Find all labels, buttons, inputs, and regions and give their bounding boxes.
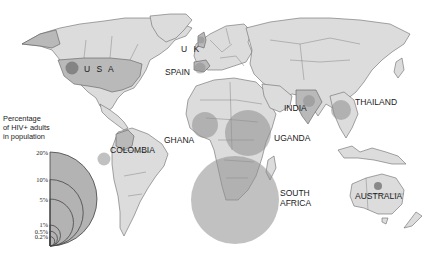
new-zealand xyxy=(404,212,422,228)
label-spain: SPAIN xyxy=(165,67,190,77)
legend-title-line2: of HIV+ adults xyxy=(3,123,50,132)
label-usa: U S A xyxy=(84,64,116,74)
legend-tick-label: 0.2% xyxy=(35,233,49,240)
bubble-australia xyxy=(374,182,382,190)
label-colombia: COLOMBIA xyxy=(110,145,155,155)
legend-tick-label: 20% xyxy=(36,149,48,156)
legend: Percentage of HIV+ adults in population … xyxy=(3,114,97,246)
legend-tick-label: 10% xyxy=(36,176,48,183)
label-south-africa-line1: SOUTH xyxy=(280,188,310,198)
alaska-territory xyxy=(22,30,60,48)
label-south-africa-line2: AFRICA xyxy=(280,198,312,208)
bubble-thailand xyxy=(331,100,351,120)
label-ghana: GHANA xyxy=(164,135,195,145)
world-map: U S A U K SPAIN COLOMBIA GHANA UGANDA IN… xyxy=(0,0,430,256)
bubble-uk xyxy=(198,37,205,44)
label-uganda: UGANDA xyxy=(274,133,311,143)
legend-title-line3: in population xyxy=(3,132,45,141)
indonesia xyxy=(338,146,406,164)
tasmania xyxy=(382,218,388,224)
label-uk: U K xyxy=(181,44,201,54)
label-thailand: THAILAND xyxy=(355,97,397,107)
central-america xyxy=(100,104,128,130)
legend-tick-label: 5% xyxy=(39,196,48,203)
bubble-uganda xyxy=(225,110,271,156)
legend-ticks: 20%10%5%1%0.5%0.2% xyxy=(35,149,49,241)
bubble-colombia xyxy=(98,153,111,166)
bubble-ghana xyxy=(192,112,218,138)
legend-title-line1: Percentage xyxy=(3,114,41,123)
legend-arcs xyxy=(50,152,97,246)
bubble-south-africa xyxy=(191,156,279,244)
label-india: INDIA xyxy=(284,103,307,113)
japan xyxy=(394,58,404,78)
bubble-usa xyxy=(66,62,79,75)
label-australia: AUSTRALIA xyxy=(355,191,403,201)
bubble-spain xyxy=(195,63,206,74)
legend-circle xyxy=(50,152,97,246)
